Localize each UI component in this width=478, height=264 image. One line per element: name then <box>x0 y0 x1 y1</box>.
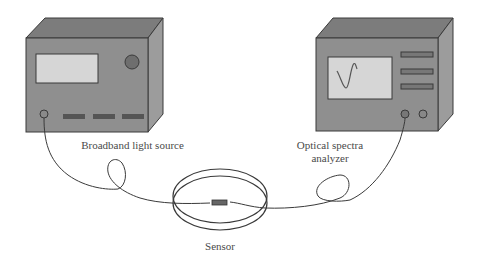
slot <box>122 114 144 119</box>
setup-diagram <box>0 0 478 264</box>
sensor-label: Sensor <box>195 240 245 253</box>
analyzer-label: Optical spectra analyzer <box>290 139 370 165</box>
knob-icon <box>419 110 427 118</box>
analyzer-label-line1: Optical spectra <box>290 139 370 152</box>
slot <box>63 114 85 119</box>
broadband-light-source-device <box>26 18 163 132</box>
analyzer-label-line2: analyzer <box>290 152 370 165</box>
sensor-coil <box>173 169 267 230</box>
slot <box>93 114 115 119</box>
input-port-icon <box>401 110 409 118</box>
knob-icon <box>125 55 139 69</box>
spectrum-screen <box>328 57 392 99</box>
display-screen <box>36 54 98 83</box>
sensor-element-icon <box>212 200 227 205</box>
optical-spectra-analyzer-device <box>316 18 453 131</box>
light-source-label: Broadband light source <box>70 139 195 152</box>
output-port-icon <box>40 110 48 118</box>
